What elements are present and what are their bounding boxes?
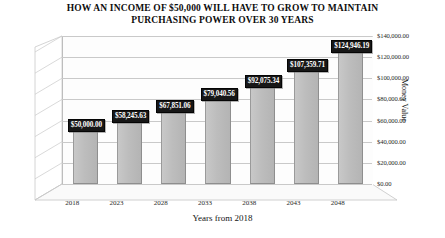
x-axis-tick-label: 2048: [316, 199, 360, 207]
x-axis-tick-label: 2038: [227, 199, 271, 207]
bar-column: [205, 100, 228, 184]
y-axis-tick-label: $60,000.00: [377, 117, 406, 124]
x-axis-tick-label: 2033: [183, 199, 227, 207]
y-axis-tick-label: $80,000.00: [377, 95, 406, 102]
x-axis-title: Years from 2018: [0, 213, 445, 223]
gridline: [62, 36, 372, 37]
bar-front-face: [117, 121, 142, 184]
gridline-depth: [35, 121, 62, 137]
bar-front-face: [338, 51, 363, 184]
chart-title-line-1: HOW AN INCOME OF $50,000 WILL HAVE TO GR…: [67, 3, 379, 13]
bar-front-face: [250, 86, 275, 184]
bar-data-label: $107,359.71: [287, 59, 328, 72]
y-axis-tick-label: $140,000.00: [377, 32, 409, 39]
x-axis-tick-label: 2043: [271, 199, 315, 207]
bar-front-face: [294, 70, 319, 184]
y-axis-tick-label: $40,000.00: [377, 138, 406, 145]
bar-column: [250, 87, 273, 184]
bar-column: [338, 52, 361, 184]
gridline: [62, 184, 372, 185]
bar-front-face: [73, 130, 98, 184]
bar-data-label: $79,040.56: [201, 88, 238, 101]
gridline: [62, 78, 372, 79]
gridline-depth: [35, 57, 62, 73]
bar-data-label: $92,075.34: [245, 75, 282, 88]
y-axis-tick-label: $100,000.00: [377, 74, 409, 81]
gridline-depth: [35, 36, 62, 52]
bar-column: [117, 122, 140, 184]
chart-title-line-2: PURCHASING POWER OVER 30 YEARS: [131, 15, 314, 25]
bar-column: [294, 71, 317, 184]
bar-front-face: [205, 99, 230, 184]
bar-data-label: $124,946.19: [331, 40, 372, 53]
bar-data-label: $50,000.00: [68, 119, 105, 132]
gridline-depth: [35, 142, 62, 158]
bar-data-label: $67,851.06: [156, 100, 193, 113]
bar-column: [73, 131, 96, 184]
x-axis-tick-label: 2018: [50, 199, 94, 207]
chart-title: HOW AN INCOME OF $50,000 WILL HAVE TO GR…: [0, 3, 445, 26]
x-axis-tick-label: 2028: [139, 199, 183, 207]
gridline-depth: [35, 78, 62, 94]
chart-container: HOW AN INCOME OF $50,000 WILL HAVE TO GR…: [0, 0, 445, 238]
bar-column: [161, 112, 184, 184]
gridline-depth: [35, 99, 62, 115]
bar-front-face: [161, 111, 186, 184]
x-axis-tick-label: 2023: [94, 199, 138, 207]
y-axis-tick-label: $0.00: [377, 180, 391, 187]
y-axis-tick-label: $120,000.00: [377, 53, 409, 60]
gridline-depth: [35, 163, 62, 179]
gridline-depth: [35, 184, 62, 200]
bar-data-label: $58,245.63: [112, 110, 149, 123]
y-axis-tick-label: $20,000.00: [377, 159, 406, 166]
